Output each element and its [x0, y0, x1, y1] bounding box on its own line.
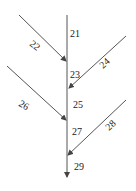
link-label-24: 24: [97, 56, 112, 71]
link-label-27: 27: [72, 126, 82, 137]
tributary-22: [19, 15, 66, 61]
link-label-21: 21: [70, 28, 80, 39]
link-label-22: 22: [28, 38, 43, 53]
link-label-23: 23: [70, 69, 80, 80]
tributary-26: [7, 66, 66, 120]
link-label-29: 29: [74, 161, 84, 172]
link-label-25: 25: [73, 99, 83, 110]
link-label-26: 26: [17, 98, 31, 113]
stream-network-diagram: 21 22 23 24 25 26 27 28 29: [0, 0, 136, 191]
